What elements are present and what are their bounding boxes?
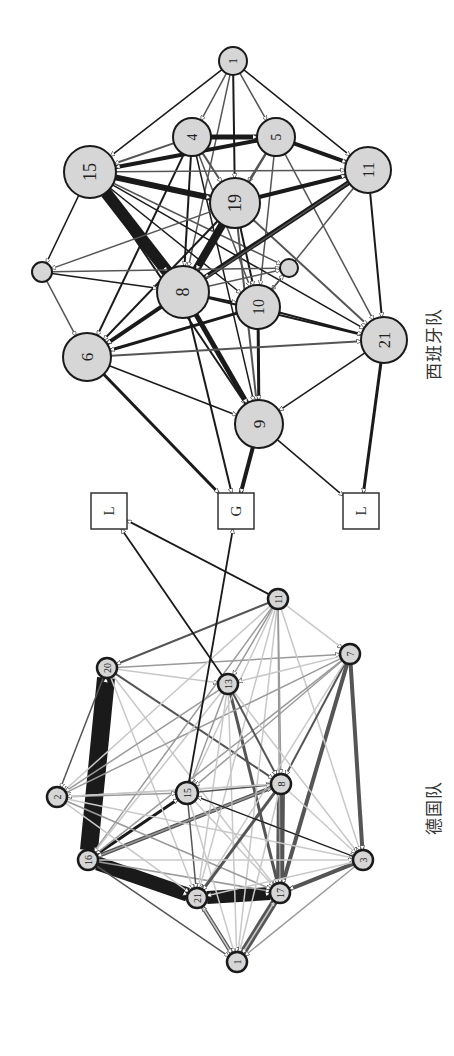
- node-label: 3: [358, 858, 369, 863]
- node-spain-4: 4: [173, 118, 211, 156]
- node-label: 13: [223, 679, 234, 689]
- node-label: 16: [83, 855, 94, 865]
- node-germany-11: 11: [268, 589, 288, 609]
- edge-g3-g1: [245, 866, 355, 955]
- node-germany-16: 16: [78, 850, 98, 870]
- edge-g17-g1: [242, 901, 274, 953]
- node-germany-8: 8: [271, 774, 291, 794]
- node-label: 20: [102, 663, 113, 673]
- box-label: G: [228, 505, 244, 516]
- node-germany-17: 17: [270, 883, 290, 903]
- node-label: 1: [232, 960, 243, 965]
- node-label: 6: [78, 352, 97, 361]
- edge-g20-g7: [117, 655, 340, 668]
- network-diagram: 1451511198106219LGL1120713215816321171: [0, 0, 454, 1056]
- edge-s15-sa: [46, 195, 78, 263]
- node-label: 4: [185, 133, 200, 140]
- node-label: 11: [273, 594, 284, 604]
- node-label: 19: [225, 194, 245, 212]
- edge-s10-s21: [279, 313, 361, 335]
- edge-g13-g16: [94, 692, 222, 852]
- node-label: 9: [250, 420, 269, 429]
- edge-g15-G: [189, 529, 233, 782]
- edge-s10-s9: [258, 329, 259, 400]
- edge-g7-g3: [351, 664, 363, 850]
- node-spain-5: 5: [257, 118, 295, 156]
- node-spain-11: 11: [345, 147, 391, 193]
- node-germany-3: 3: [353, 850, 373, 870]
- node-label: 17: [275, 888, 286, 898]
- outcome-box-G: G: [218, 493, 254, 529]
- team-label-spain: 西班牙队: [420, 308, 445, 380]
- node-germany-7: 7: [340, 644, 360, 664]
- node-spain-1: 1: [219, 47, 247, 75]
- edge-g11-L1: [127, 520, 269, 594]
- node-spain-10: 10: [236, 285, 280, 329]
- edge-g13-L1: [121, 529, 222, 676]
- edge-s9-G: [241, 447, 253, 493]
- outcome-box-L1: L: [91, 493, 127, 529]
- edge-sa-s8: [52, 273, 157, 288]
- node-germany-20: 20: [97, 658, 117, 678]
- edge-g3-g17: [289, 864, 353, 890]
- node-label: 5: [269, 133, 284, 140]
- edge-g7-g8: [286, 663, 346, 775]
- edge-g16-g20: [89, 678, 106, 850]
- edge-g16-g21: [97, 863, 187, 894]
- edge-s6-s21: [111, 341, 361, 355]
- edge-sa-s6: [47, 281, 76, 336]
- node-label: 15: [80, 163, 100, 181]
- node-spain-unlabeled: [280, 259, 298, 277]
- edge-s15-s11: [116, 170, 345, 172]
- node-label: 11: [359, 162, 378, 178]
- node-label: 1: [226, 58, 240, 64]
- node-label: 21: [375, 332, 394, 349]
- node-label: 2: [52, 795, 63, 800]
- edge-s10-s6: [110, 313, 237, 350]
- node-spain-19: 19: [210, 178, 260, 228]
- node-label: 15: [182, 788, 193, 798]
- node-spain-unlabeled: [32, 262, 52, 282]
- edge-s6-s9: [109, 366, 236, 416]
- edge-g13-g1: [228, 694, 236, 952]
- node-germany-13: 13: [218, 674, 238, 694]
- edge-s21-L2: [363, 363, 381, 493]
- node-germany-1: 1: [227, 952, 247, 972]
- node-label: 10: [250, 299, 267, 315]
- node-spain-9: 9: [235, 400, 283, 448]
- box-label: L: [101, 506, 117, 515]
- node-label: 7: [345, 652, 356, 657]
- node-label: 8: [173, 288, 193, 297]
- node-spain-21: 21: [361, 317, 407, 363]
- node-spain-8: 8: [157, 266, 209, 318]
- edge-s1-s4: [201, 73, 226, 120]
- edge-g20-g13: [117, 669, 218, 682]
- outcome-box-L2: L: [343, 493, 379, 529]
- node-germany-21: 21: [187, 888, 207, 908]
- edge-s1-s5: [240, 73, 267, 120]
- node-germany-15: 15: [176, 782, 198, 804]
- edge-s9-L2: [277, 440, 343, 496]
- node-spain-6: 6: [63, 333, 111, 381]
- edge-s8-s9: [196, 315, 247, 404]
- edge-s1-s19: [233, 75, 234, 178]
- node-spain-15: 15: [64, 146, 116, 198]
- edge-s6-G: [104, 374, 219, 493]
- edge-s21-s9: [279, 353, 365, 411]
- team-label-germany: 德国队: [420, 781, 445, 835]
- box-label: L: [353, 506, 369, 515]
- node-label: 21: [192, 893, 203, 903]
- node-germany-2: 2: [47, 787, 67, 807]
- edge-s5-s10: [260, 156, 274, 285]
- node-label: 8: [276, 782, 287, 787]
- edge-g11-g7: [286, 605, 342, 648]
- edge-s11-s21: [370, 193, 382, 317]
